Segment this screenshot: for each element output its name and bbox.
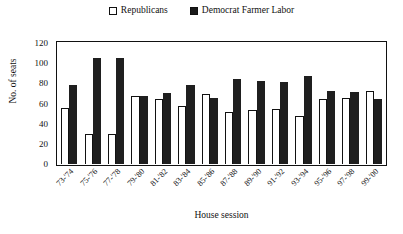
bar-group	[362, 43, 385, 165]
x-axis-tick-label: 89-'90	[242, 167, 263, 188]
bar-republicans	[295, 116, 303, 165]
bar-democrat-farmer-labor	[116, 58, 124, 165]
bar-group	[104, 43, 127, 165]
legend-item-republicans: Republicans	[109, 5, 168, 16]
x-axis-tick-slot: 93-'94	[292, 166, 315, 208]
bar-groups-layer	[58, 43, 386, 165]
bar-republicans	[248, 110, 256, 165]
x-axis-tick-label: 73-'74	[55, 167, 76, 188]
bar-republicans	[319, 99, 327, 164]
y-axis-tick-20: 20	[39, 140, 48, 149]
chart-legend: Republicans Democrat Farmer Labor	[0, 5, 403, 16]
y-axis-tick-60: 60	[39, 99, 48, 108]
bar-democrat-farmer-labor	[350, 92, 358, 164]
x-axis-tick-label: 97-'98	[336, 167, 357, 188]
y-axis-tick-80: 80	[39, 79, 48, 88]
x-axis-tick-label: 83-'84	[172, 167, 193, 188]
x-axis-tick-slot: 79-'80	[128, 166, 151, 208]
bar-group	[315, 43, 338, 165]
y-axis-tick-40: 40	[39, 119, 48, 128]
bar-democrat-farmer-labor	[163, 93, 171, 164]
x-axis-tick-label: 77-'78	[102, 167, 123, 188]
x-axis-tick-label: 91-'92	[266, 167, 287, 188]
bar-republicans	[202, 94, 210, 164]
x-axis-tick-label: 75-'76	[78, 167, 99, 188]
bar-republicans	[178, 106, 186, 165]
y-axis-tick-100: 100	[35, 58, 49, 67]
bar-group	[198, 43, 221, 165]
bar-group	[58, 43, 81, 165]
x-axis-tick-slot: 91-'92	[268, 166, 291, 208]
bar-democrat-farmer-labor	[374, 99, 382, 164]
x-axis-title: House session	[56, 210, 387, 221]
bar-group	[151, 43, 174, 165]
bar-group	[268, 43, 291, 165]
x-axis-tick-slot: 95-'96	[315, 166, 338, 208]
bar-group	[175, 43, 198, 165]
legend-label-democrat-farmer-labor: Democrat Farmer Labor	[202, 5, 294, 16]
bar-republicans	[131, 96, 139, 164]
x-axis-tick-slot: 83-'84	[175, 166, 198, 208]
x-axis-tick-slot: 87-'88	[222, 166, 245, 208]
bar-group	[81, 43, 104, 165]
bar-democrat-farmer-labor	[93, 58, 101, 165]
y-axis-tick-120: 120	[35, 38, 49, 47]
x-axis-tick-label: 95-'96	[312, 167, 333, 188]
bar-democrat-farmer-labor	[327, 91, 335, 164]
x-axis-tick-slot: 81-'82	[151, 166, 174, 208]
bar-democrat-farmer-labor	[140, 96, 148, 164]
bar-group	[339, 43, 362, 165]
x-axis-tick-label: 93-'94	[289, 167, 310, 188]
y-axis-tick-0: 0	[44, 160, 49, 169]
x-axis-tick-slot: 73-'74	[58, 166, 81, 208]
bar-republicans	[225, 112, 233, 165]
bar-republicans	[108, 134, 116, 164]
bar-democrat-farmer-labor	[280, 82, 288, 164]
x-axis-tick-labels: 73-'7475-'7677-'7879-'8081-'8283-'8485-'…	[58, 166, 386, 208]
bar-democrat-farmer-labor	[186, 85, 194, 164]
bar-democrat-farmer-labor	[69, 85, 77, 164]
bar-republicans	[61, 108, 69, 165]
bar-republicans	[85, 134, 93, 164]
bar-democrat-farmer-labor	[210, 98, 218, 164]
x-axis-tick-slot: 89-'90	[245, 166, 268, 208]
legend-item-democrat-farmer-labor: Democrat Farmer Labor	[190, 5, 294, 16]
bar-republicans	[272, 109, 280, 165]
bar-group	[245, 43, 268, 165]
y-axis-title: No. of seats	[8, 35, 18, 127]
bar-republicans	[155, 99, 163, 164]
x-axis-tick-slot: 97-'98	[339, 166, 362, 208]
x-axis-tick-label: 85-'86	[195, 167, 216, 188]
bar-group	[128, 43, 151, 165]
bar-democrat-farmer-labor	[257, 81, 265, 164]
bar-chart-figure: Republicans Democrat Farmer Labor 120100…	[0, 0, 403, 234]
legend-swatch-democrat-farmer-labor-icon	[190, 7, 198, 15]
x-axis-tick-label: 79-'80	[125, 167, 146, 188]
bar-democrat-farmer-labor	[304, 76, 312, 164]
bar-group	[292, 43, 315, 165]
bar-republicans	[342, 98, 350, 164]
x-axis-tick-slot: 99-'00	[362, 166, 385, 208]
bar-democrat-farmer-labor	[233, 79, 241, 164]
bar-group	[222, 43, 245, 165]
x-axis-tick-label: 99-'00	[359, 167, 380, 188]
bar-republicans	[366, 91, 374, 164]
x-axis-tick-label: 87-'88	[219, 167, 240, 188]
x-axis-tick-slot: 85-'86	[198, 166, 221, 208]
legend-swatch-republicans-icon	[109, 7, 117, 15]
x-axis-tick-label: 81-'82	[148, 167, 169, 188]
x-axis-tick-slot: 75-'76	[81, 166, 104, 208]
legend-label-republicans: Republicans	[121, 5, 168, 16]
x-axis-tick-slot: 77-'78	[104, 166, 127, 208]
